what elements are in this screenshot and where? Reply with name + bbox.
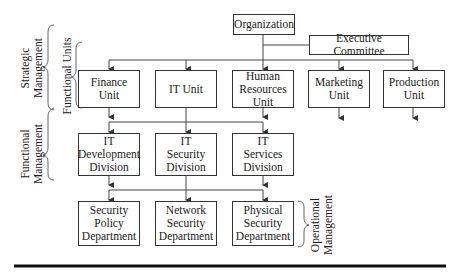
hr-unit-box: Human Resources Unit	[232, 70, 294, 108]
functional-management-label: Functional Management	[19, 114, 45, 194]
marketing-unit-box: Marketing Unit	[308, 70, 370, 108]
security-policy-department-box: Security Policy Department	[78, 201, 140, 246]
physical-security-department-box: Physical Security Department	[232, 201, 294, 246]
it-security-division-box: IT Security Division	[155, 133, 217, 176]
organization-box: Organization	[233, 14, 295, 35]
functional-units-label: Functional Units	[61, 31, 75, 121]
finance-unit-box: Finance Unit	[78, 70, 140, 108]
it-development-division-box: IT Development Division	[78, 133, 140, 176]
it-unit-box: IT Unit	[155, 70, 217, 108]
it-services-division-box: IT Services Division	[232, 133, 294, 176]
strategic-management-label: Strategic Management	[19, 28, 45, 108]
operational-management-label: Operational Management	[309, 185, 335, 265]
network-security-department-box: Network Security Department	[155, 201, 217, 246]
production-unit-box: Production Unit	[383, 70, 445, 108]
executive-committee-box: Executive Committee	[309, 35, 409, 55]
